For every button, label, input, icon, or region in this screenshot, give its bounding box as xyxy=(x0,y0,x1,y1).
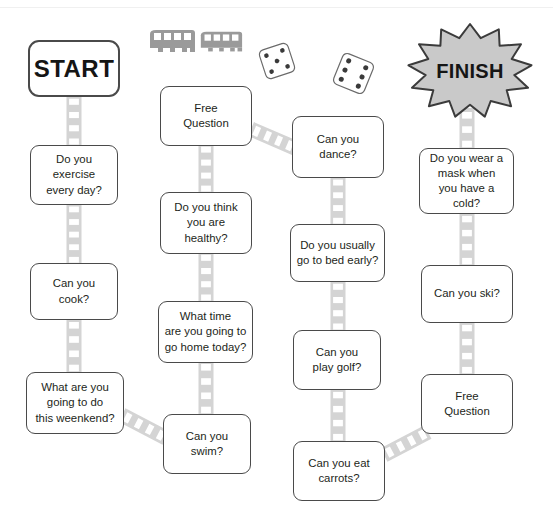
tile-golf[interactable]: Can you play golf? xyxy=(293,330,381,390)
ladder-cook-to-weekend xyxy=(67,318,82,375)
ladder-rung xyxy=(69,219,79,225)
ladder-rung xyxy=(201,160,211,166)
tile-text: What time are you going to go home today… xyxy=(165,309,247,354)
ladder-rung xyxy=(69,351,79,358)
ladder-rung xyxy=(333,406,343,412)
ladder-start-to-exercise xyxy=(67,95,82,148)
tile-text: Do you think you are healthy? xyxy=(174,200,237,245)
ladder-rung xyxy=(462,353,472,359)
ladder-gohome-to-healthy xyxy=(199,251,214,304)
ladder-rung xyxy=(69,99,79,105)
ladder-free-to-dance xyxy=(248,122,298,155)
ladder-free-to-ski xyxy=(460,321,475,377)
ladder-rung xyxy=(333,218,343,224)
ladder-rung xyxy=(201,295,211,301)
ladder-rung xyxy=(201,186,211,192)
ladder-rung xyxy=(201,268,211,274)
ladder-rung xyxy=(69,207,79,213)
tile-go-home[interactable]: What time are you going to go home today… xyxy=(158,301,253,363)
ladder-rung xyxy=(201,393,211,400)
ladder-rung xyxy=(462,325,472,331)
tile-text: Can you eat carrots? xyxy=(308,456,369,486)
start-tile[interactable]: START xyxy=(28,40,120,97)
tile-text: What are you going to do this weenkend? xyxy=(35,380,114,425)
tile-dance[interactable]: Can you dance? xyxy=(292,116,384,178)
ladder-rung xyxy=(69,257,79,263)
tile-weekend[interactable]: What are you going to do this weenkend? xyxy=(26,372,124,434)
ladder-rung xyxy=(333,192,343,198)
ladder-healthy-to-free xyxy=(199,143,214,195)
ladder-rung xyxy=(201,281,211,287)
ladder-rung xyxy=(333,392,343,398)
ladder-rung xyxy=(69,139,79,145)
tile-cook[interactable]: Can you cook? xyxy=(30,263,118,320)
bus-icon-left xyxy=(150,30,195,52)
ladder-rung xyxy=(462,339,472,345)
ladder-rung xyxy=(333,324,343,330)
ladder-rung xyxy=(201,255,211,261)
die-icon-right xyxy=(332,52,375,95)
tile-text: Can you cook? xyxy=(53,276,95,306)
tile-carrots[interactable]: Can you eat carrots? xyxy=(293,441,385,501)
ladder-rung xyxy=(69,365,79,372)
ladder-rung xyxy=(462,258,472,264)
ladder-ski-to-mask xyxy=(460,212,475,268)
ladder-rung xyxy=(69,322,79,329)
ladder-rung xyxy=(69,232,79,238)
ladder-rung xyxy=(201,173,211,179)
ladder-golf-to-carrots xyxy=(331,388,346,444)
ladder-rung xyxy=(201,364,211,371)
die-icon-left xyxy=(258,42,296,80)
tile-swim[interactable]: Can you swim? xyxy=(163,414,251,474)
ladder-rung xyxy=(333,420,343,426)
tile-text: Do you exercise every day? xyxy=(46,152,102,197)
ladder-rung xyxy=(462,367,472,373)
tile-bed-early[interactable]: Do you usually go to bed early? xyxy=(290,224,385,282)
ladder-rung xyxy=(462,126,472,133)
tile-ski[interactable]: Can you ski? xyxy=(421,265,513,323)
tile-free-question-lower[interactable]: Free Question xyxy=(421,374,513,434)
ladder-rung xyxy=(462,141,472,148)
bus-icon-right xyxy=(201,32,242,52)
tile-text: Can you dance? xyxy=(317,132,359,162)
board-game-canvas: START FINISH Do you exercise every day?C… xyxy=(0,0,553,530)
tile-text: Can you play golf? xyxy=(313,345,362,375)
tile-mask[interactable]: Do you wear a mask when you have a cold? xyxy=(419,148,514,214)
ladder-rung xyxy=(69,244,79,250)
ladder-rung xyxy=(462,216,472,222)
ladder-swim-to-gohome xyxy=(199,360,214,417)
ladder-rung xyxy=(462,230,472,236)
ladder-rung xyxy=(333,284,343,290)
start-label: START xyxy=(34,55,115,83)
ladder-rung xyxy=(201,147,211,153)
tile-free-question-upper[interactable]: Free Question xyxy=(160,86,252,146)
ladder-rung xyxy=(201,407,211,414)
tile-exercise[interactable]: Do you exercise every day? xyxy=(30,145,118,205)
ladder-rung xyxy=(69,336,79,343)
tile-text: Free Question xyxy=(183,101,229,131)
finish-tile[interactable]: FINISH xyxy=(408,24,532,118)
tile-healthy[interactable]: Do you think you are healthy? xyxy=(160,192,252,254)
ladder-rung xyxy=(69,112,79,118)
ladder-rung xyxy=(333,205,343,211)
ladder-band xyxy=(119,408,170,444)
ladder-bed-to-golf xyxy=(331,280,346,333)
ladder-rung xyxy=(333,434,343,440)
ladder-rung xyxy=(333,180,343,186)
tile-text: Can you swim? xyxy=(186,429,228,459)
ladder-rung xyxy=(201,378,211,385)
ladder-dance-to-bed xyxy=(331,176,346,227)
ladder-rung xyxy=(333,310,343,316)
ladder-rung xyxy=(462,244,472,250)
tile-text: Do you wear a mask when you have a cold? xyxy=(430,151,503,211)
connector-group xyxy=(67,95,475,462)
tile-text: Free Question xyxy=(444,389,490,419)
ladder-rung xyxy=(69,125,79,131)
ladder-weekend-to-swim xyxy=(119,408,170,444)
ladder-rung xyxy=(333,297,343,303)
finish-label: FINISH xyxy=(408,24,532,118)
ladder-exercise-to-cook xyxy=(67,203,82,266)
tile-text: Can you ski? xyxy=(434,286,500,301)
tile-text: Do you usually go to bed early? xyxy=(297,238,379,268)
